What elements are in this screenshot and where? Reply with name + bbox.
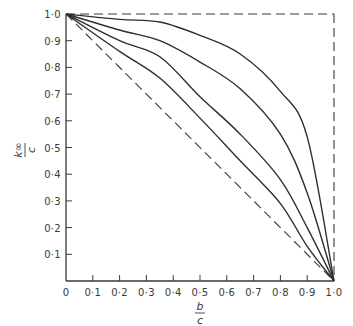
y-axis-label-numerator: k∞ — [12, 142, 25, 158]
y-axis-ticks: 0·10·20·30·40·50·60·70·80·91·0 — [44, 9, 72, 260]
x-tick-label: 0·5 — [192, 287, 209, 298]
y-tick-label: 0·1 — [44, 249, 61, 260]
y-tick-label: 0·2 — [44, 223, 61, 234]
x-tick-label: 0·3 — [138, 287, 155, 298]
y-tick-label: 0·3 — [44, 196, 61, 207]
chart: 00·10·20·30·40·50·60·70·80·91·0 0·10·20·… — [0, 0, 353, 326]
x-tick-label: 0·2 — [111, 287, 128, 298]
x-axis-ticks: 00·10·20·30·40·50·60·70·80·91·0 — [63, 275, 343, 298]
x-axis-label: b c — [195, 300, 205, 326]
x-tick-label: 0·6 — [218, 287, 235, 298]
plot-series — [66, 14, 334, 281]
y-tick-label: 0·5 — [44, 143, 61, 154]
y-tick-label: 0·4 — [44, 169, 61, 180]
x-tick-label: 1·0 — [326, 287, 343, 298]
x-axis-label-numerator: b — [197, 300, 204, 313]
y-tick-label: 0·6 — [44, 116, 61, 127]
y-tick-label: 0·7 — [44, 89, 61, 100]
y-tick-label: 0·9 — [44, 36, 61, 47]
y-axis-label-denominator: c — [25, 147, 38, 153]
diagonal-limit-dashed-line — [66, 14, 334, 281]
x-tick-label: 0·4 — [165, 287, 182, 298]
y-axis-label: k∞ c — [12, 142, 38, 158]
x-tick-label: 0·7 — [245, 287, 262, 298]
y-tick-label: 0·8 — [44, 62, 61, 73]
x-tick-label: 0·9 — [299, 287, 316, 298]
x-tick-label: 0 — [63, 287, 70, 298]
x-tick-label: 0·1 — [84, 287, 101, 298]
x-tick-label: 0·8 — [272, 287, 289, 298]
y-tick-label: 1·0 — [44, 9, 61, 20]
x-axis-label-denominator: c — [197, 314, 203, 326]
